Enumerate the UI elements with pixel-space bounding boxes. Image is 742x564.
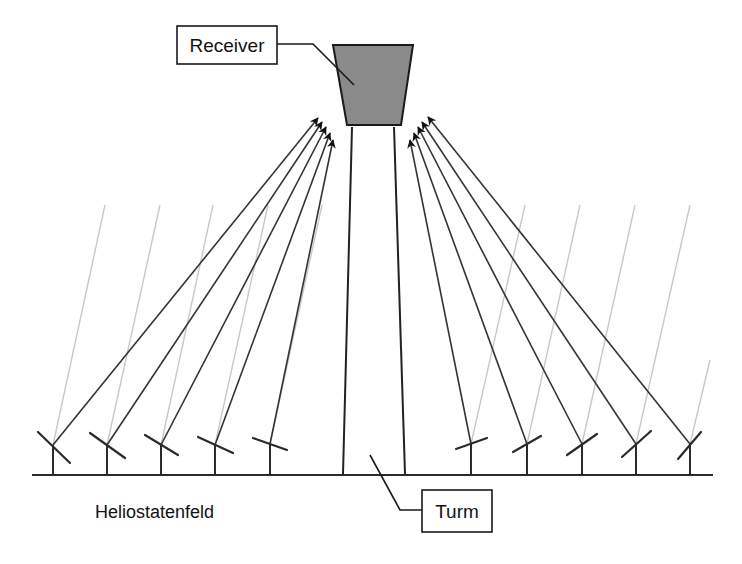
tower-left-wall (343, 127, 352, 474)
tower-right-wall (394, 127, 405, 474)
tower (343, 127, 405, 474)
heliostat (678, 432, 701, 475)
solar-tower-diagram: Receiver Turm Heliostatenfeld (0, 0, 742, 564)
tower-callout: Turm (370, 455, 492, 532)
receiver-label: Receiver (190, 35, 266, 56)
heliostat-field-label: Heliostatenfeld (95, 502, 214, 522)
heliostat (90, 433, 125, 475)
heliostat (456, 438, 487, 475)
incident-sun-rays (53, 205, 710, 445)
reflected-ray (161, 127, 326, 445)
sun-ray (527, 205, 580, 444)
heliostat (253, 438, 287, 475)
sun-ray (582, 205, 635, 444)
reflected-ray (107, 122, 322, 445)
tower-leader-line (370, 455, 422, 510)
sun-ray (636, 205, 690, 444)
sun-ray (53, 205, 105, 445)
heliostat (622, 431, 651, 475)
tower-label: Turm (435, 501, 479, 522)
reflected-rays-group (53, 117, 690, 445)
reflected-ray (414, 133, 527, 444)
reflected-ray (410, 140, 471, 444)
sun-ray (690, 360, 710, 444)
reflected-ray (53, 118, 318, 445)
heliostat (567, 434, 597, 475)
reflected-ray (215, 133, 330, 445)
diagram-canvas: Receiver Turm Heliostatenfeld (0, 0, 742, 564)
sun-ray (471, 205, 525, 444)
receiver-callout: Receiver (177, 26, 354, 85)
reflected-ray (418, 127, 582, 444)
heliostat-field (38, 431, 701, 475)
reflected-ray (422, 122, 636, 444)
sun-ray (107, 205, 160, 445)
receiver-shape (333, 45, 413, 125)
